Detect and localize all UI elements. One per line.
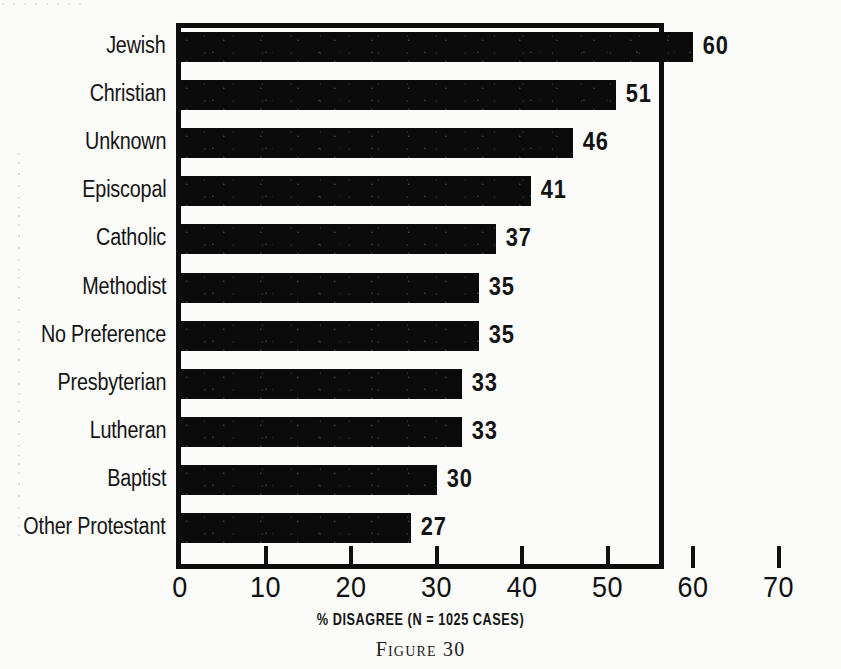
x-tick-label: 20 [335,571,366,604]
bar [180,465,437,495]
bar-row: Methodist35 [0,273,841,303]
x-tick-label: 10 [250,571,281,604]
bar-row: Lutheran33 [0,417,841,447]
bar-rows: Jewish60Christian51Unknown46Episcopal41C… [0,23,841,553]
x-tick-label: 30 [421,571,452,604]
category-label: Catholic [96,224,166,252]
bar [180,176,531,206]
bar-row: Baptist30 [0,465,841,495]
bar-row: Jewish60 [0,32,841,62]
bar [180,513,411,543]
bar-value-label: 30 [446,464,472,494]
category-label: Episcopal [82,176,166,204]
bar-value-label: 37 [506,223,532,253]
bar [180,128,573,158]
category-label: Jewish [107,32,166,60]
bar [180,80,616,110]
category-label: Baptist [107,464,166,492]
category-label: Unknown [85,128,166,156]
x-tick-label: 60 [677,571,708,604]
bar-row: Catholic37 [0,224,841,254]
bar-row: Presbyterian33 [0,369,841,399]
bar-row: Unknown46 [0,128,841,158]
figure-page: Jewish60Christian51Unknown46Episcopal41C… [0,0,841,669]
bar [180,273,479,303]
bar-row: No Preference35 [0,321,841,351]
bar-value-label: 27 [421,512,447,542]
category-label: Methodist [82,272,166,300]
bar-value-label: 35 [489,319,515,349]
x-tick-label: 40 [506,571,537,604]
category-label: Other Protestant [24,513,166,541]
bar-value-label: 33 [472,416,498,446]
bar [180,321,479,351]
category-label: Presbyterian [57,368,166,396]
figure-caption: Figure 30 [0,638,841,661]
scan-artifact-top [0,0,90,8]
bar-value-label: 46 [583,127,609,157]
bar-row: Episcopal41 [0,176,841,206]
bar [180,32,693,62]
x-tick-label: 0 [172,571,188,604]
bar [180,417,462,447]
bar-row: Christian51 [0,80,841,110]
bar-value-label: 33 [472,367,498,397]
bar [180,369,462,399]
bar-value-label: 51 [626,79,652,109]
x-tick-label: 70 [763,571,794,604]
bar-value-label: 35 [489,271,515,301]
category-label: Lutheran [89,416,166,444]
category-label: Christian [90,80,166,108]
bar-value-label: 41 [540,175,566,205]
category-label: No Preference [41,320,166,348]
x-tick-label: 50 [592,571,623,604]
x-axis-title: % DISAGREE (N = 1025 CASES) [25,611,816,629]
bar [180,224,496,254]
bar-value-label: 60 [703,31,729,61]
bar-row: Other Protestant27 [0,513,841,543]
